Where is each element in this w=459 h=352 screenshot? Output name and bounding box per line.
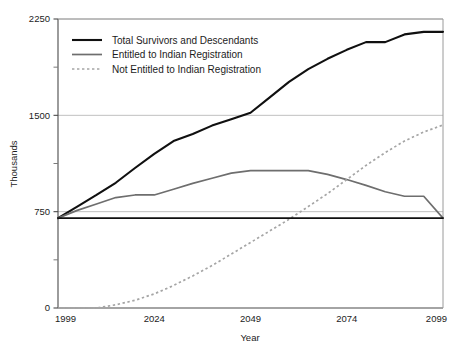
plot-area-background [58, 19, 443, 308]
y-tick-label-750: 750 [34, 206, 50, 217]
legend-label-1: Entitled to Indian Registration [112, 49, 243, 60]
x-axis-tick-labels: 19992024204920742099 [55, 313, 447, 324]
y-axis-minor-ticks [54, 67, 59, 260]
legend-label-0: Total Survivors and Descendants [112, 35, 258, 46]
x-tick-label-1999: 1999 [55, 313, 76, 324]
legend-label-2: Not Entitled to Indian Registration [112, 64, 261, 75]
x-tick-label-2049: 2049 [240, 313, 261, 324]
line-chart-canvas: 075015002250 19992024204920742099 Year T… [0, 0, 459, 352]
x-axis-title: Year [240, 332, 259, 343]
y-tick-label-2250: 2250 [29, 13, 50, 24]
x-tick-label-2099: 2099 [426, 313, 447, 324]
x-tick-label-2074: 2074 [336, 313, 357, 324]
y-axis-title: Thousands [8, 140, 19, 187]
y-axis-tick-labels: 075015002250 [29, 13, 50, 313]
chart-figure: 075015002250 19992024204920742099 Year T… [0, 0, 459, 352]
x-tick-label-2024: 2024 [144, 313, 165, 324]
y-tick-label-1500: 1500 [29, 110, 50, 121]
y-tick-label-0: 0 [45, 302, 50, 313]
